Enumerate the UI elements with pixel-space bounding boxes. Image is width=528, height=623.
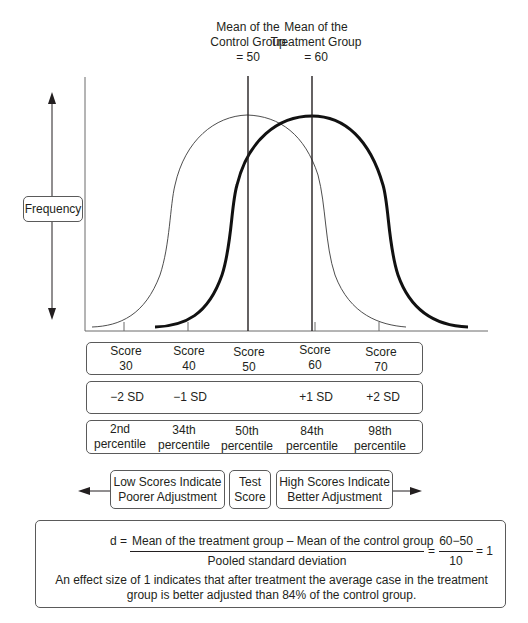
sd-cell: +2 SD xyxy=(366,390,400,405)
formula-numeric-numerator: 60−50 xyxy=(438,534,474,548)
percentile-cell: 2ndpercentile xyxy=(94,422,146,452)
percentile-cell: 50thpercentile xyxy=(221,424,273,454)
score-cell: Score50 xyxy=(233,345,264,375)
formula-denominator: Pooled standard deviation xyxy=(132,554,422,568)
formula-numerator: Mean of the treatment group – Mean of th… xyxy=(132,534,422,548)
control-group-curve xyxy=(92,115,406,327)
formula-numeric-bar xyxy=(439,551,473,552)
percentile-cell: 34thpercentile xyxy=(158,423,210,453)
formula-equals: = xyxy=(428,544,435,558)
score-cell: Score30 xyxy=(110,344,141,374)
formula-fraction-bar xyxy=(130,551,424,552)
formula-numeric-denominator: 10 xyxy=(438,554,474,568)
sd-row: −2 SD −1 SD +1 SD +2 SD xyxy=(86,381,423,414)
sd-cell: +1 SD xyxy=(299,390,333,405)
sd-cell: −1 SD xyxy=(173,390,207,405)
score-cell: Score40 xyxy=(173,344,204,374)
formula-explanation: An effect size of 1 indicates that after… xyxy=(36,573,507,603)
score-cell: Score70 xyxy=(365,345,396,375)
sd-cell: −2 SD xyxy=(110,390,144,405)
formula-lhs: d = xyxy=(110,534,127,548)
percentile-row: 2ndpercentile 34thpercentile 50thpercent… xyxy=(86,420,423,454)
low-direction-arrow-icon xyxy=(78,487,110,495)
high-direction-arrow-icon xyxy=(393,487,422,495)
percentile-cell: 84thpercentile xyxy=(286,424,338,454)
low-scores-box: Low Scores IndicatePoorer Adjustment xyxy=(110,470,225,509)
effect-size-formula-box: d = Mean of the treatment group – Mean o… xyxy=(35,520,506,608)
formula-result: = 1 xyxy=(476,544,493,558)
score-cell: Score60 xyxy=(299,343,330,373)
treatment-mean-label: Mean of the Treatment Group = 60 xyxy=(266,20,366,65)
percentile-cell: 98thpercentile xyxy=(354,424,406,454)
high-scores-box: High Scores IndicateBetter Adjustment xyxy=(276,470,393,509)
test-score-box: TestScore xyxy=(229,470,271,509)
score-row: Score30 Score40 Score50 Score60 Score70 xyxy=(86,342,423,375)
frequency-label: Frequency xyxy=(23,196,83,222)
